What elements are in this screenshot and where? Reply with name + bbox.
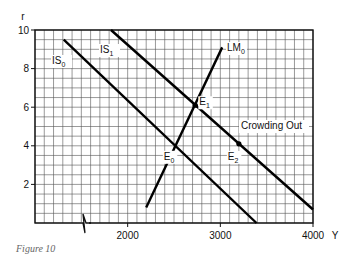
- label-is0: IS0: [51, 55, 72, 68]
- label-e1: E1: [198, 96, 213, 109]
- x-tick-label: 2000: [117, 230, 140, 241]
- label-is1: IS1: [99, 44, 120, 57]
- axis-break-icon: [77, 214, 91, 233]
- y-tick-label: 4: [23, 140, 29, 151]
- curve-is0: [64, 40, 257, 223]
- y-tick-label: 6: [23, 102, 29, 113]
- x-tick-label: 3000: [209, 230, 232, 241]
- label-lm0: LM0: [226, 42, 247, 55]
- y-axis-label: r: [21, 11, 25, 22]
- x-tick-label: 4000: [302, 230, 325, 241]
- annotation-crowding-out: Crowding Out: [241, 120, 302, 131]
- y-tick-label: 8: [23, 63, 29, 74]
- x-axis-label: Y: [332, 230, 339, 241]
- figure-caption: Figure 10: [16, 243, 55, 254]
- label-e0: E0: [163, 151, 178, 164]
- label-e2: E2: [227, 151, 242, 164]
- point-e2: [236, 141, 241, 146]
- point-e1: [193, 103, 198, 108]
- y-tick-label: 10: [18, 25, 30, 36]
- y-tick-label: 2: [23, 179, 29, 190]
